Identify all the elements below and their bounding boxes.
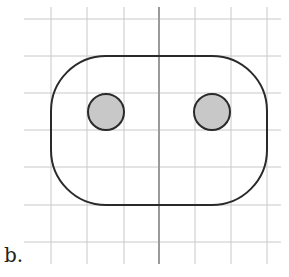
figure-label: b. (4, 243, 23, 267)
grid-lines (24, 7, 281, 264)
right-circle (194, 94, 230, 130)
symmetry-diagram (0, 0, 289, 277)
left-circle (88, 94, 124, 130)
